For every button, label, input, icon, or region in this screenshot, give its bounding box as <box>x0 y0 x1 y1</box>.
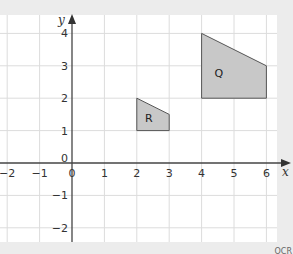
y-tick-label: 4 <box>61 27 68 40</box>
coordinate-grid: RQ −2−1012345643210−1−2 x y <box>0 0 293 254</box>
y-tick-label: 0 <box>61 152 68 165</box>
x-tick-label: 2 <box>133 167 140 180</box>
x-axis <box>0 159 291 167</box>
x-axis-label: x <box>282 165 289 179</box>
y-tick-label: 1 <box>61 125 68 138</box>
shape-label-q: Q <box>215 67 224 80</box>
credit-text: OCR <box>275 247 292 254</box>
x-tick-label: 0 <box>69 167 76 180</box>
y-axis-arrow-icon <box>68 14 76 24</box>
x-tick-label: −2 <box>0 167 15 180</box>
y-tick-label: 2 <box>61 92 68 105</box>
y-tick-label: −2 <box>52 222 68 235</box>
y-tick-label: −1 <box>52 189 68 202</box>
x-tick-label: 4 <box>198 167 205 180</box>
x-tick-label: −1 <box>31 167 47 180</box>
shape-label-r: R <box>145 112 153 125</box>
x-tick-label: 6 <box>263 167 270 180</box>
x-tick-label: 3 <box>166 167 173 180</box>
y-axis-label: y <box>57 13 65 27</box>
shape-r <box>137 98 169 130</box>
x-tick-label: 1 <box>101 167 108 180</box>
y-tick-label: 3 <box>61 60 68 73</box>
x-tick-label: 5 <box>231 167 238 180</box>
y-axis <box>68 14 76 242</box>
